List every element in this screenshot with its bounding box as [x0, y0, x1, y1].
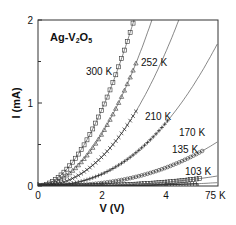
temperature-label: 75 K	[205, 190, 226, 201]
fit-line	[38, 20, 179, 186]
title-label: Ag-V2O5	[50, 31, 92, 44]
fit-line	[38, 44, 217, 186]
temperature-labels: 300 K252 K210 K170 K135 K103 K75 K	[86, 57, 226, 201]
temperature-label: 300 K	[86, 66, 112, 77]
iv-curves-chart: 024012 Ag-V2O5 V (V) I (mA) 300 K252 K21…	[0, 0, 236, 225]
x-tick-label: 4	[163, 190, 169, 201]
y-axis-label: I (mA)	[10, 87, 22, 119]
data-markers	[36, 110, 138, 188]
y-tick-label: 2	[27, 15, 33, 26]
fit-line	[38, 20, 152, 186]
temperature-label: 103 K	[185, 166, 211, 177]
temperature-label: 135 K	[172, 144, 198, 155]
temperature-label: 170 K	[179, 127, 205, 138]
plot-frame	[38, 20, 218, 186]
fit-line	[38, 20, 134, 186]
plot-area	[36, 20, 217, 188]
x-tick-label: 2	[99, 190, 105, 201]
x-axis-label: V (V)	[99, 202, 124, 214]
temperature-label: 210 K	[145, 111, 171, 122]
temperature-label: 252 K	[141, 57, 167, 68]
y-tick-label: 0	[27, 181, 33, 192]
data-markers	[36, 61, 138, 187]
x-tick-label: 0	[35, 190, 41, 201]
y-tick-label: 1	[27, 98, 33, 109]
